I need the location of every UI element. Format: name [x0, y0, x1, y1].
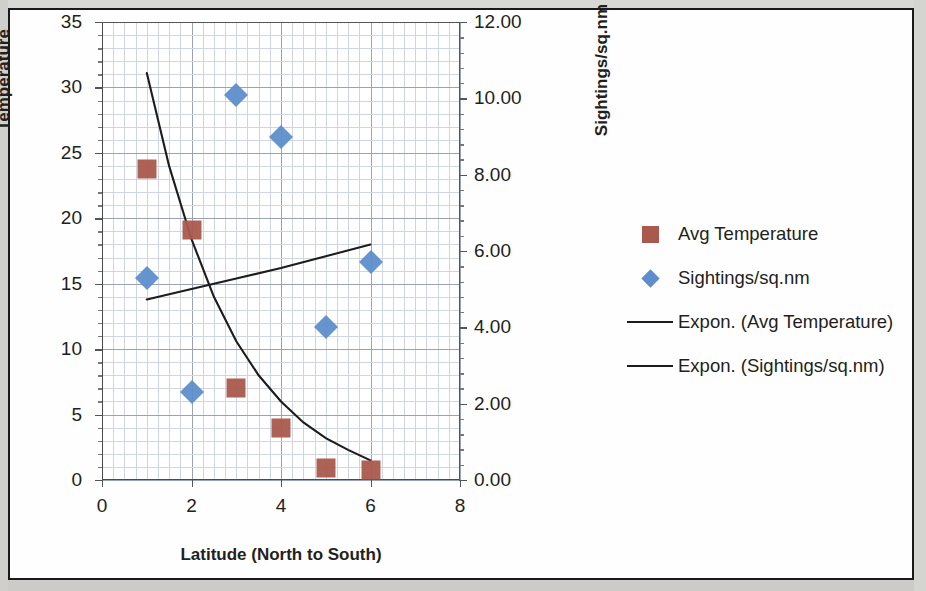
- x-axis-tick-label: 2: [172, 495, 212, 517]
- y2-axis-minor-tick: [460, 53, 464, 54]
- y2-axis-minor-tick: [460, 343, 464, 344]
- y2-axis-title: Sightings/sq.nm: [592, 0, 612, 180]
- x-axis-tick-label: 0: [82, 495, 122, 517]
- y-axis-minor-tick: [98, 205, 102, 206]
- y2-axis-minor-tick: [460, 236, 464, 237]
- y2-axis-minor-tick: [460, 373, 464, 374]
- x-axis-tick: [371, 480, 372, 487]
- y-axis-minor-tick: [98, 48, 102, 49]
- data-point-avg-temperature: [316, 459, 335, 478]
- y-axis-tick-label: 10: [46, 338, 82, 360]
- y2-axis-minor-tick: [460, 159, 464, 160]
- legend-item[interactable]: Avg Temperature: [622, 212, 912, 256]
- y-axis-tick-label: 35: [46, 11, 82, 33]
- data-point-avg-temperature: [361, 460, 380, 479]
- y-axis-minor-tick: [98, 362, 102, 363]
- y-axis-minor-tick: [98, 388, 102, 389]
- data-point-avg-temperature: [182, 221, 201, 240]
- x-axis-title: Latitude (North to South): [102, 545, 460, 565]
- legend-swatch: [641, 269, 659, 287]
- trendline-avg-temperature: [147, 73, 371, 460]
- y2-axis-minor-tick: [460, 312, 464, 313]
- y-axis-minor-tick: [98, 192, 102, 193]
- legend-swatch: [627, 321, 673, 323]
- legend-swatch: [627, 365, 673, 367]
- y2-axis-minor-tick: [460, 434, 464, 435]
- y-axis-minor-tick: [98, 271, 102, 272]
- y-axis-tick: [95, 415, 102, 416]
- y2-axis-minor-tick: [460, 358, 464, 359]
- y-axis-minor-tick: [98, 244, 102, 245]
- legend-label: Expon. (Avg Temperature): [678, 311, 893, 333]
- legend-key-line-icon: [622, 365, 678, 367]
- y-axis-minor-tick: [98, 297, 102, 298]
- y-axis-minor-tick: [98, 441, 102, 442]
- y-axis-minor-tick: [98, 140, 102, 141]
- y2-axis-minor-tick: [460, 37, 464, 38]
- chart-screenshot: 05101520253035 0.002.004.006.008.0010.00…: [0, 0, 926, 591]
- y2-axis-minor-tick: [460, 220, 464, 221]
- y-axis-tick-label: 15: [46, 273, 82, 295]
- data-point-avg-temperature: [272, 418, 291, 437]
- legend-item[interactable]: Expon. (Sightings/sq.nm): [622, 344, 912, 388]
- y-axis-minor-tick: [98, 61, 102, 62]
- legend-item[interactable]: Sightings/sq.nm: [622, 256, 912, 300]
- y2-axis-tick: [460, 404, 467, 405]
- y2-axis-tick: [460, 327, 467, 328]
- x-axis-tick: [192, 480, 193, 487]
- y2-axis-minor-tick: [460, 114, 464, 115]
- y-axis-tick-label: 0: [46, 469, 82, 491]
- y-axis-title: Temperature: [0, 0, 14, 180]
- legend-key-diamond-icon: [622, 272, 678, 285]
- y2-axis-tick-label: 12.00: [474, 11, 544, 33]
- legend-item[interactable]: Expon. (Avg Temperature): [622, 300, 912, 344]
- y-axis-minor-tick: [98, 74, 102, 75]
- y-axis-minor-tick: [98, 310, 102, 311]
- y2-axis-minor-tick: [460, 266, 464, 267]
- y-axis-minor-tick: [98, 336, 102, 337]
- y-axis-tick: [95, 153, 102, 154]
- x-axis-tick: [460, 480, 461, 487]
- y2-axis-minor-tick: [460, 190, 464, 191]
- y-axis-minor-tick: [98, 467, 102, 468]
- y-axis-tick: [95, 480, 102, 481]
- legend-key-square-icon: [622, 226, 678, 243]
- y-axis-tick-label: 20: [46, 207, 82, 229]
- chart-legend: Avg TemperatureSightings/sq.nmExpon. (Av…: [622, 212, 912, 388]
- trendline-sightings: [147, 245, 371, 300]
- y2-axis-minor-tick: [460, 205, 464, 206]
- y2-axis-minor-tick: [460, 465, 464, 466]
- y2-axis-tick: [460, 175, 467, 176]
- y2-axis-minor-tick: [460, 129, 464, 130]
- y-axis-tick-label: 5: [46, 404, 82, 426]
- x-axis-tick-label: 6: [351, 495, 391, 517]
- y2-axis-tick-label: 2.00: [474, 393, 544, 415]
- y-axis-tick: [95, 284, 102, 285]
- x-axis-tick: [281, 480, 282, 487]
- y-axis-tick: [95, 22, 102, 23]
- y2-axis-minor-tick: [460, 83, 464, 84]
- y-axis-tick-label: 30: [46, 76, 82, 98]
- data-point-avg-temperature: [227, 379, 246, 398]
- data-point-avg-temperature: [137, 159, 156, 178]
- y-axis-tick: [95, 349, 102, 350]
- y-axis-minor-tick: [98, 35, 102, 36]
- legend-label: Expon. (Sightings/sq.nm): [678, 355, 885, 377]
- y-axis-minor-tick: [98, 401, 102, 402]
- x-axis-tick: [102, 480, 103, 487]
- y-axis-minor-tick: [98, 114, 102, 115]
- y2-axis-minor-tick: [460, 297, 464, 298]
- y2-axis-minor-tick: [460, 388, 464, 389]
- y-axis-tick-label: 25: [46, 142, 82, 164]
- legend-label: Avg Temperature: [678, 223, 818, 245]
- y-axis-tick: [95, 87, 102, 88]
- y2-axis-tick-label: 10.00: [474, 87, 544, 109]
- y-axis-minor-tick: [98, 323, 102, 324]
- legend-key-line-icon: [622, 321, 678, 323]
- y2-axis-tick-label: 4.00: [474, 316, 544, 338]
- y2-axis-minor-tick: [460, 68, 464, 69]
- y-axis-minor-tick: [98, 101, 102, 102]
- y2-axis-minor-tick: [460, 449, 464, 450]
- y-axis-minor-tick: [98, 179, 102, 180]
- y-axis-minor-tick: [98, 127, 102, 128]
